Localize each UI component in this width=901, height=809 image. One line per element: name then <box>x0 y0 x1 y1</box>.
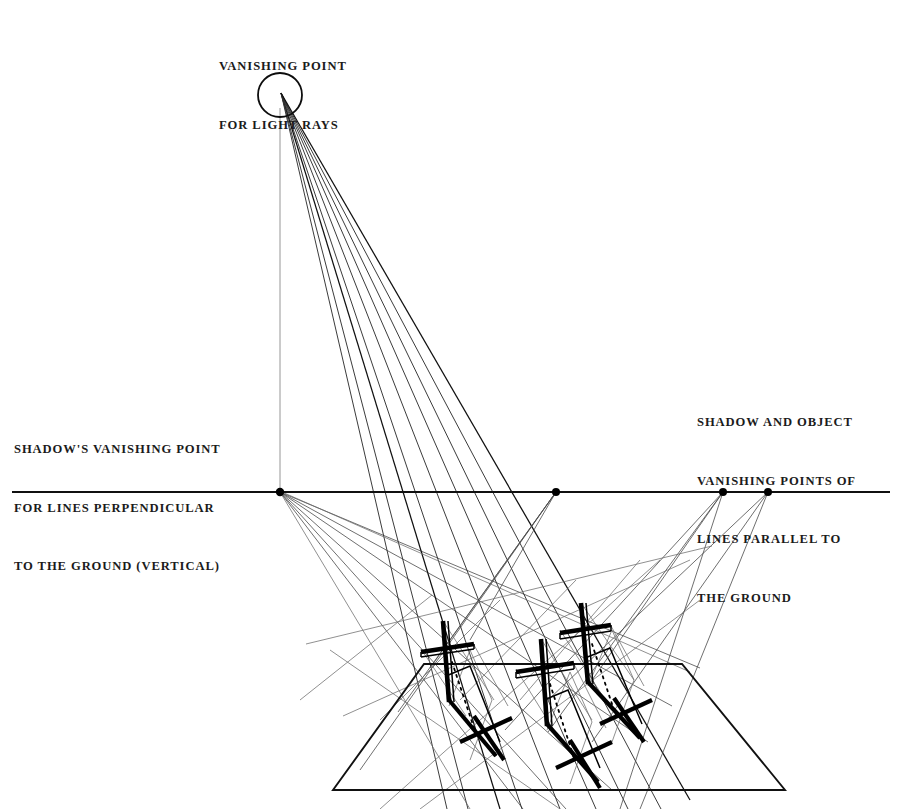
cross-right <box>560 603 652 742</box>
label-left-line-2: FOR LINES PERPENDICULAR <box>14 499 221 519</box>
label-right-line-1: SHADOW AND OBJECT <box>697 413 856 433</box>
cross-middle-post <box>541 639 547 726</box>
label-shadows-vanishing-point: SHADOW'S VANISHING POINT FOR LINES PERPE… <box>14 401 221 616</box>
label-right-line-4: THE GROUND <box>697 589 856 609</box>
ground-plane <box>333 664 785 790</box>
label-vanishing-point-for-light-rays: VANISHING POINT FOR LIGHT RAYS <box>219 18 347 174</box>
cross-left <box>421 621 512 760</box>
label-right-line-2: VANISHING POINTS OF <box>697 472 856 492</box>
cross-left-post <box>443 621 449 702</box>
light-ray-fan <box>281 93 690 809</box>
label-sun-line-2: FOR LIGHT RAYS <box>219 116 347 136</box>
label-shadow-and-object-vanishing-points: SHADOW AND OBJECT VANISHING POINTS OF LI… <box>697 374 856 647</box>
label-sun-line-1: VANISHING POINT <box>219 57 347 77</box>
label-right-line-3: LINES PARALLEL TO <box>697 530 856 550</box>
label-left-line-3: TO THE GROUND (VERTICAL) <box>14 557 221 577</box>
misc-construction-lines <box>280 492 712 809</box>
left-vp-construction-fan <box>280 492 700 809</box>
vp-mid-dot <box>552 488 560 496</box>
label-left-line-1: SHADOW'S VANISHING POINT <box>14 440 221 460</box>
vp-shadow-vertical-dot <box>276 488 284 496</box>
perspective-diagram: VANISHING POINT FOR LIGHT RAYS SHADOW'S … <box>0 0 901 809</box>
cross-middle <box>516 639 612 788</box>
